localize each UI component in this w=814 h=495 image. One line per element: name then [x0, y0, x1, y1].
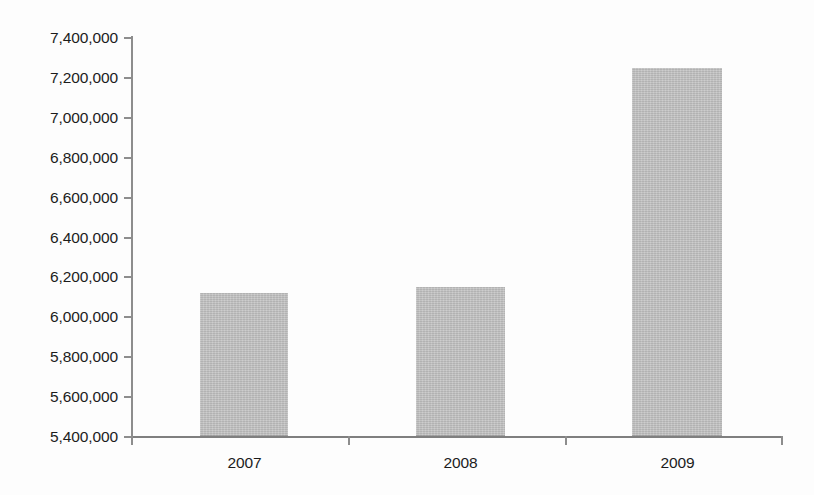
y-axis-tick-5600000: 5,600,000: [0, 387, 145, 407]
y-tick-mark: [124, 197, 133, 199]
y-tick-mark: [124, 276, 133, 278]
y-tick-mark: [124, 77, 133, 79]
x-category-label-2009: 2009: [620, 452, 735, 474]
x-category-label-2007: 2007: [187, 452, 302, 474]
y-tick-mark: [124, 37, 133, 39]
bar-2007[interactable]: [200, 293, 288, 437]
x-tick-mark: [348, 436, 350, 445]
y-axis-tick-5400000: 5,400,000: [0, 427, 145, 447]
y-tick-mark: [124, 356, 133, 358]
y-tick-label: 5,600,000: [8, 387, 118, 407]
y-tick-label: 7,200,000: [8, 68, 118, 88]
y-axis-tick-7400000: 7,400,000: [0, 28, 145, 48]
bar-2008[interactable]: [416, 287, 505, 437]
y-tick-label: 7,400,000: [8, 28, 118, 48]
y-axis-tick-6200000: 6,200,000: [0, 267, 145, 287]
x-tick-mark: [131, 436, 133, 445]
y-tick-mark: [124, 157, 133, 159]
y-tick-label: 6,200,000: [8, 267, 118, 287]
y-tick-label: 5,800,000: [8, 347, 118, 367]
y-axis-tick-7200000: 7,200,000: [0, 68, 145, 88]
x-tick-mark: [565, 436, 567, 445]
x-axis-line: [131, 436, 783, 438]
y-tick-mark: [124, 237, 133, 239]
y-axis-tick-5800000: 5,800,000: [0, 347, 145, 367]
y-axis-tick-6600000: 6,600,000: [0, 188, 145, 208]
y-axis-tick-6000000: 6,000,000: [0, 307, 145, 327]
y-tick-label: 6,600,000: [8, 188, 118, 208]
y-tick-mark: [124, 316, 133, 318]
x-tick-mark: [781, 436, 783, 445]
y-tick-label: 5,400,000: [8, 427, 118, 447]
y-tick-mark: [124, 396, 133, 398]
bar-2009[interactable]: [632, 68, 722, 437]
x-category-label-2008: 2008: [403, 452, 518, 474]
y-axis-tick-6800000: 6,800,000: [0, 148, 145, 168]
y-axis-tick-6400000: 6,400,000: [0, 228, 145, 248]
y-axis-tick-7000000: 7,000,000: [0, 108, 145, 128]
y-tick-label: 6,400,000: [8, 228, 118, 248]
y-tick-label: 6,000,000: [8, 307, 118, 327]
y-tick-label: 7,000,000: [8, 108, 118, 128]
bar-chart: 7,400,000 7,200,000 7,000,000 6,800,000 …: [0, 0, 814, 495]
y-tick-mark: [124, 117, 133, 119]
y-tick-label: 6,800,000: [8, 148, 118, 168]
